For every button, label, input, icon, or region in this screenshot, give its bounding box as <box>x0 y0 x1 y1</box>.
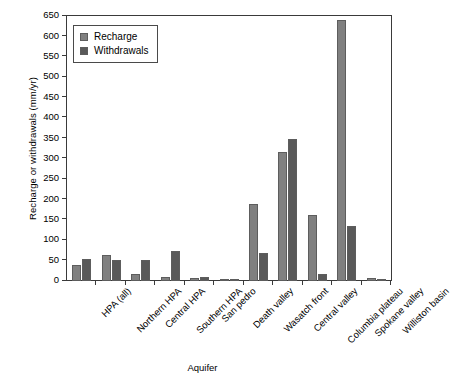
bar-group <box>190 16 209 281</box>
y-axis-tick: 300 <box>43 152 66 164</box>
y-axis-tick-label: 0 <box>54 275 62 285</box>
bar-recharge <box>249 204 258 281</box>
legend-swatch-withdrawals <box>80 47 88 55</box>
y-axis-tick: 0 <box>54 274 66 286</box>
y-axis-tick: 650 <box>43 9 66 21</box>
y-axis-tick-label: 150 <box>43 214 62 224</box>
y-axis-tick-label: 400 <box>43 112 62 122</box>
bar-group <box>249 16 268 281</box>
bar-group <box>367 16 386 281</box>
bar-withdrawals <box>112 260 121 281</box>
bar-recharge <box>131 274 140 281</box>
bar-group <box>161 16 180 281</box>
y-axis-tick: 550 <box>43 50 66 62</box>
legend-label: Withdrawals <box>94 46 148 56</box>
x-axis-tick-mark <box>243 281 244 285</box>
y-axis-tick-label: 200 <box>43 194 62 204</box>
x-axis-tick-mark <box>272 281 273 285</box>
y-axis-ticks: 050100150200250300350400450500550600650 <box>0 0 66 296</box>
y-axis-tick-label: 500 <box>43 71 62 81</box>
y-axis-tick-label: 50 <box>48 255 62 265</box>
y-axis-tick-label: 300 <box>43 153 62 163</box>
y-axis-tick: 150 <box>43 213 66 225</box>
x-axis-tick-mark <box>154 281 155 285</box>
x-axis-tick-mark <box>390 281 391 285</box>
legend-swatch-recharge <box>80 33 88 41</box>
bar-withdrawals <box>171 251 180 281</box>
chart-legend: RechargeWithdrawals <box>73 25 158 63</box>
bar-recharge <box>72 265 81 281</box>
bar-group <box>278 16 297 281</box>
y-axis-tick-label: 350 <box>43 133 62 143</box>
bar-withdrawals <box>82 259 91 281</box>
y-axis-tick: 250 <box>43 172 66 184</box>
x-axis-tick-mark <box>361 281 362 285</box>
bar-recharge <box>278 152 287 281</box>
y-axis-tick: 200 <box>43 192 66 204</box>
bar-withdrawals <box>288 139 297 281</box>
legend-label: Recharge <box>94 32 137 42</box>
x-axis-title: Aquifer <box>0 362 405 373</box>
y-axis-tick: 450 <box>43 91 66 103</box>
x-axis-tick-mark <box>302 281 303 285</box>
y-axis-tick-label: 600 <box>43 31 62 41</box>
y-axis-tick-label: 250 <box>43 173 62 183</box>
y-axis-tick: 50 <box>48 254 66 266</box>
bar-group <box>220 16 239 281</box>
y-axis-tick: 100 <box>43 233 66 245</box>
bar-recharge <box>308 215 317 281</box>
x-axis-category-labels: HPA (all)Northern HPACentral HPASouthern… <box>66 286 392 356</box>
x-axis-tick-mark <box>213 281 214 285</box>
bar-group <box>308 16 327 281</box>
bar-recharge <box>337 20 346 281</box>
legend-item: Withdrawals <box>80 44 148 58</box>
bar-withdrawals <box>141 260 150 281</box>
y-axis-tick-label: 650 <box>43 10 62 20</box>
x-axis-category-label: HPA (all) <box>99 286 132 319</box>
y-axis-tick-label: 450 <box>43 92 62 102</box>
bar-recharge <box>102 255 111 282</box>
y-axis-tick: 500 <box>43 70 66 82</box>
bar-withdrawals <box>259 253 268 281</box>
bar-group <box>337 16 356 281</box>
y-axis-tick: 400 <box>43 111 66 123</box>
y-axis-tick-label: 550 <box>43 51 62 61</box>
bar-withdrawals <box>347 226 356 281</box>
y-axis-tick: 600 <box>43 29 66 41</box>
x-axis-tick-mark <box>331 281 332 285</box>
legend-item: Recharge <box>80 30 148 44</box>
y-axis-tick: 350 <box>43 131 66 143</box>
x-axis-tick-mark <box>184 281 185 285</box>
y-axis-tick-label: 100 <box>43 234 62 244</box>
x-axis-tick-mark <box>95 281 96 285</box>
